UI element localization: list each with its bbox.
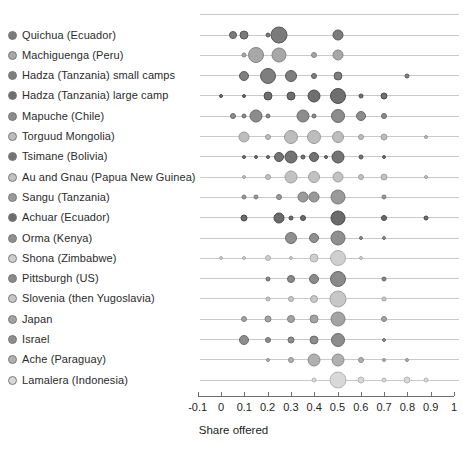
data-bubble [241, 316, 247, 322]
data-bubble [358, 174, 364, 180]
data-bubble [308, 89, 321, 102]
x-axis-title: Share offered [0, 424, 467, 436]
data-bubble [381, 316, 387, 322]
x-axis-tick-label: 0.8 [400, 401, 415, 413]
category-label-text: Shona (Zimbabwe) [22, 253, 117, 264]
category-label-15: Israel [8, 333, 50, 347]
x-axis-tick-label: 0.9 [423, 401, 438, 413]
legend-dot-icon [8, 112, 17, 121]
category-label-12: Pittsburgh (US) [8, 272, 99, 286]
data-bubble [330, 210, 345, 225]
legend-dot-icon [8, 355, 17, 364]
data-bubble [381, 174, 388, 181]
category-label-1: Machiguenga (Peru) [8, 48, 123, 62]
data-bubble [265, 255, 271, 261]
data-bubble [324, 155, 328, 159]
data-bubble [285, 232, 297, 244]
legend-dot-icon [8, 132, 17, 141]
category-label-text: Ache (Paraguay) [22, 354, 106, 365]
data-bubble [381, 215, 387, 221]
data-bubble [265, 114, 270, 119]
data-bubble [229, 31, 237, 39]
data-bubble [382, 195, 387, 200]
data-bubble [424, 378, 429, 383]
data-bubble [274, 152, 284, 162]
data-bubble [308, 171, 320, 183]
legend-dot-icon [8, 315, 17, 324]
data-bubble [331, 150, 344, 163]
category-label-text: Orma (Kenya) [22, 233, 92, 244]
category-label-8: Sangu (Tanzania) [8, 190, 110, 204]
category-label-16: Ache (Paraguay) [8, 353, 106, 367]
category-label-text: Au and Gnau (Papua New Guinea) [22, 172, 196, 183]
data-bubble [239, 131, 250, 142]
data-bubble [310, 295, 318, 303]
data-bubble [230, 113, 236, 119]
data-bubble [331, 109, 345, 123]
data-bubble [310, 315, 319, 324]
data-bubble [330, 312, 345, 327]
data-bubble [424, 135, 428, 139]
data-bubble [263, 91, 272, 100]
data-bubble [382, 378, 387, 383]
data-bubble [249, 110, 262, 123]
data-bubble [260, 68, 276, 84]
data-bubble [286, 91, 295, 100]
x-axis-tick-label: 0.6 [353, 401, 368, 413]
x-axis-tick-label: 0.7 [376, 401, 391, 413]
category-label-2: Hadza (Tanzania) small camps [8, 69, 175, 83]
data-bubble [382, 296, 387, 301]
category-label-5: Torguud Mongolia) [8, 130, 115, 144]
category-label-9: Achuar (Ecuador) [8, 211, 110, 225]
data-bubble [381, 113, 387, 119]
data-bubble [382, 338, 386, 342]
data-bubble [288, 357, 294, 363]
data-bubble [330, 88, 346, 104]
data-bubble [276, 194, 282, 200]
data-bubble [332, 30, 343, 41]
x-axis-tick-label: -0.1 [188, 401, 207, 413]
category-label-text: Hadza (Tanzania) large camp [22, 90, 168, 101]
data-bubble [219, 256, 223, 260]
data-bubble [359, 236, 363, 240]
data-bubble [382, 276, 387, 281]
data-bubble [309, 233, 319, 243]
data-bubble [265, 174, 271, 180]
data-bubble [382, 155, 386, 159]
data-bubble [300, 215, 306, 221]
data-bubble [331, 353, 344, 366]
legend-dot-icon [8, 213, 17, 222]
x-axis-tick-label: 0.3 [283, 401, 298, 413]
data-bubble [271, 27, 288, 44]
category-label-text: Lamalera (Indonesia) [22, 375, 128, 386]
x-axis-tick-label: 0.5 [330, 401, 345, 413]
data-bubble [358, 154, 363, 159]
data-bubble [254, 155, 258, 159]
data-bubble [284, 150, 297, 163]
data-bubble [382, 358, 386, 362]
data-bubble [404, 377, 411, 384]
data-bubble [311, 73, 317, 79]
data-bubble [242, 53, 247, 58]
data-bubble [274, 212, 285, 223]
data-bubble [242, 155, 246, 159]
legend-dot-icon [8, 91, 17, 100]
data-bubble [310, 254, 319, 263]
category-label-text: Tsimane (Bolivia) [22, 151, 107, 162]
legend-dot-icon [8, 193, 17, 202]
category-label-text: Japan [22, 314, 52, 325]
legend-dot-icon [8, 274, 17, 283]
legend-dot-icon [8, 173, 17, 182]
data-bubble [284, 130, 298, 144]
legend-dot-icon [8, 51, 17, 60]
x-axis-tick-label: 0.2 [260, 401, 275, 413]
data-bubble [265, 134, 271, 140]
legend-dot-icon [8, 234, 17, 243]
data-bubble [284, 171, 297, 184]
x-axis-tick-label: 1 [451, 401, 457, 413]
data-bubble [356, 111, 366, 121]
data-bubble [288, 215, 293, 220]
data-bubble [242, 256, 246, 260]
data-bubble [242, 175, 246, 179]
data-bubble [266, 358, 270, 362]
